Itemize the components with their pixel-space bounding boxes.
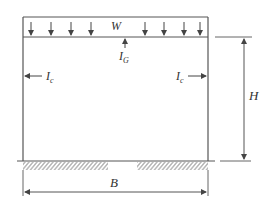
frame xyxy=(23,17,208,161)
height-dimension xyxy=(215,37,252,161)
width-label: B xyxy=(110,175,118,190)
left-column-label: Ic xyxy=(45,69,54,85)
ground-hatch-left xyxy=(23,162,108,170)
load-label: W xyxy=(111,19,122,33)
right-column-label: Ic xyxy=(175,69,184,85)
beam-inertia-label: IG xyxy=(118,49,129,65)
ground-hatch-right xyxy=(137,162,208,170)
portal-frame-diagram: W IG Ic Ic H B xyxy=(0,0,270,212)
height-label: H xyxy=(248,88,259,103)
ground xyxy=(17,161,215,170)
